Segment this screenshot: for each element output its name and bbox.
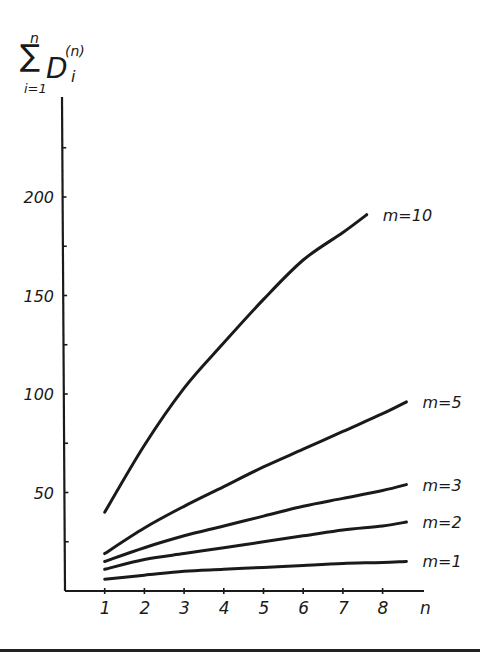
series-labels: m=10m=5m=3m=2m=1: [383, 206, 462, 572]
series-label-m-3: m=3: [422, 476, 461, 495]
x-tick-label: 6: [298, 598, 309, 618]
x-tick-label: 5: [259, 598, 270, 618]
x-tick-label: 3: [179, 598, 190, 618]
d-subscript: i: [71, 67, 76, 86]
y-tick-label: 200: [23, 188, 54, 207]
chart: ∑ n i=1 D (n) i 1234567850100150200 n m=…: [0, 0, 480, 652]
series-label-m-2: m=2: [422, 513, 461, 532]
series-line-m-5: [105, 402, 407, 554]
axis-tick-labels: 1234567850100150200: [23, 188, 388, 618]
series-label-m-10: m=10: [383, 206, 432, 225]
sum-lower-limit: i=1: [24, 81, 47, 96]
d-superscript: (n): [65, 43, 85, 59]
y-tick-label: 150: [23, 287, 54, 306]
x-tick-label: 2: [139, 598, 150, 618]
series-line-m-1: [105, 562, 407, 580]
series-lines: [105, 215, 407, 580]
x-tick-label: 4: [219, 598, 230, 618]
sum-upper-limit: n: [30, 30, 39, 46]
y-tick-label: 50: [34, 484, 54, 503]
x-tick-label: 8: [378, 598, 389, 618]
x-axis-label: n: [420, 598, 431, 618]
series-line-m-10: [105, 215, 367, 513]
y-tick-label: 100: [23, 385, 54, 404]
series-label-m-1: m=1: [422, 552, 461, 571]
axes: [62, 97, 424, 591]
series-label-m-5: m=5: [422, 393, 461, 412]
x-tick-label: 1: [100, 598, 111, 618]
y-axis-label: ∑ n i=1 D (n) i: [20, 30, 85, 96]
x-tick-label: 7: [338, 598, 349, 618]
